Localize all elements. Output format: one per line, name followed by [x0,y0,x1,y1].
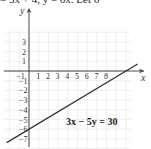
coordinate-plane: xy −112345678321−1−2−3−4−5−6−7 3x − 5y =… [0,0,151,149]
x-tick-label: 1 [36,72,40,81]
y-tick-label: 3 [22,38,26,47]
y-axis-label: y [19,5,25,16]
y-tick-label: −5 [19,116,28,125]
y-tick-label: 2 [22,48,26,57]
x-tick-label: 2 [46,72,50,81]
equation-label: 3x − 5y = 30 [66,116,117,127]
x-axis-label: x [140,72,146,83]
y-tick-label: −4 [19,106,28,115]
y-tick-label: −2 [19,86,28,95]
y-tick-label: 1 [22,57,26,66]
x-tick-label: 4 [65,72,69,81]
x-tick-label: 6 [85,72,89,81]
y-tick-label: −1 [19,77,28,86]
y-tick-label: −7 [19,135,28,144]
x-tick-label: 3 [56,72,60,81]
y-tick-label: −3 [19,96,28,105]
x-tick-label: 7 [94,72,98,81]
x-tick-label: 5 [75,72,79,81]
x-tick-label: 8 [104,72,108,81]
